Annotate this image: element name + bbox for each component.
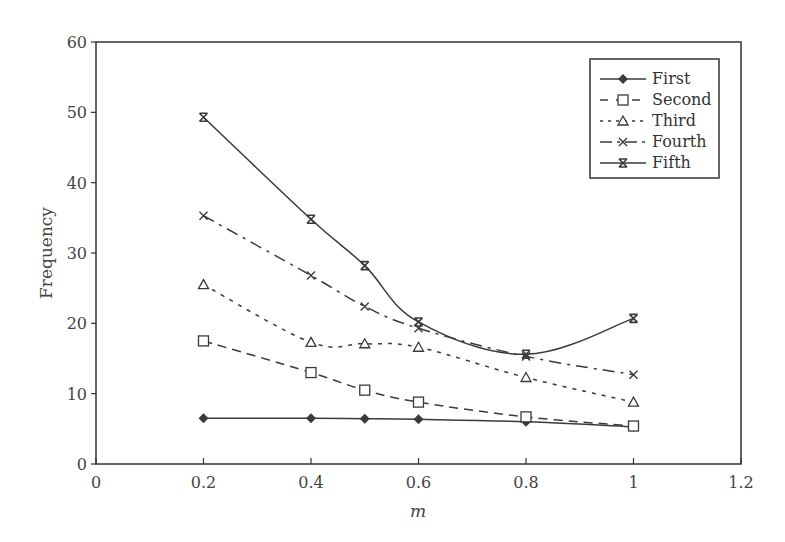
x-marker-icon xyxy=(361,302,369,310)
x-tick-label: 1 xyxy=(628,473,638,492)
legend-label: Fourth xyxy=(652,132,707,151)
square-marker-icon xyxy=(199,336,209,346)
series-first xyxy=(199,413,639,431)
x-axis-title: m xyxy=(410,501,426,521)
y-tick-label: 50 xyxy=(67,103,87,122)
x-marker-icon xyxy=(307,272,315,280)
x-tick-label: 0.8 xyxy=(513,473,538,492)
legend-label: Second xyxy=(652,90,712,109)
y-tick-label: 20 xyxy=(67,314,87,333)
x-axis: 00.20.40.60.811.2 xyxy=(91,458,754,492)
square-marker-icon xyxy=(521,412,531,422)
asterisk-marker-icon xyxy=(361,262,369,270)
triangle-marker-icon xyxy=(306,337,316,346)
diamond-marker-icon xyxy=(199,413,209,423)
diamond-marker-icon xyxy=(306,413,316,423)
frequency-vs-m-chart: 00.20.40.60.811.2 0102030405060 m Freque… xyxy=(0,0,785,542)
triangle-marker-icon xyxy=(199,280,209,289)
y-tick-label: 10 xyxy=(67,385,87,404)
legend-label: First xyxy=(652,69,691,88)
x-tick-label: 0.2 xyxy=(191,473,216,492)
square-marker-icon xyxy=(629,421,639,431)
asterisk-marker-icon xyxy=(415,318,423,326)
series-fourth xyxy=(200,212,638,379)
y-axis: 0102030405060 xyxy=(67,33,96,474)
square-marker-icon xyxy=(306,368,316,378)
series-line xyxy=(204,117,634,354)
square-marker-icon xyxy=(618,95,628,105)
diamond-marker-icon xyxy=(360,414,370,424)
x-tick-label: 0.4 xyxy=(298,473,323,492)
series-layer xyxy=(199,113,639,431)
y-tick-label: 0 xyxy=(77,455,87,474)
triangle-marker-icon xyxy=(414,342,424,351)
x-tick-label: 0.6 xyxy=(406,473,431,492)
x-tick-label: 1.2 xyxy=(728,473,753,492)
y-tick-label: 30 xyxy=(67,244,87,263)
asterisk-marker-icon xyxy=(630,314,638,322)
triangle-marker-icon xyxy=(521,372,531,381)
series-line xyxy=(204,341,634,426)
x-tick-label: 0 xyxy=(91,473,101,492)
legend-label: Third xyxy=(652,111,696,130)
x-marker-icon xyxy=(200,212,208,220)
asterisk-marker-icon xyxy=(307,215,315,223)
y-axis-title: Frequency xyxy=(36,207,56,299)
legend: FirstSecondThirdFourthFifth xyxy=(590,59,719,178)
series-third xyxy=(199,280,639,406)
square-marker-icon xyxy=(414,397,424,407)
diamond-marker-icon xyxy=(414,414,424,424)
y-tick-label: 40 xyxy=(67,174,87,193)
series-fifth xyxy=(200,113,638,358)
square-marker-icon xyxy=(360,385,370,395)
y-tick-label: 60 xyxy=(67,33,87,52)
asterisk-marker-icon xyxy=(200,113,208,121)
legend-label: Fifth xyxy=(652,153,691,172)
triangle-marker-icon xyxy=(629,397,639,406)
